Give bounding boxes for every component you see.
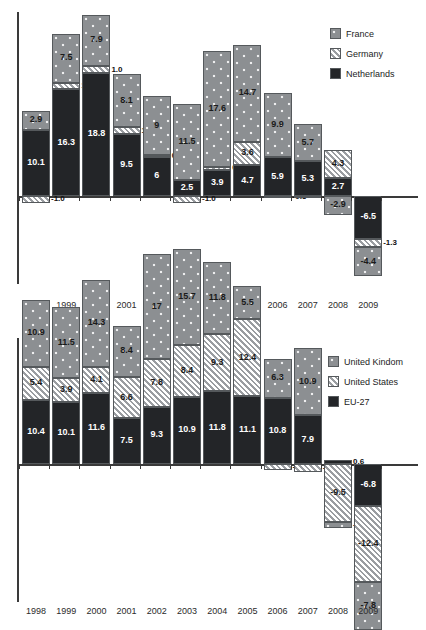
legend-item[interactable]: Netherlands — [330, 68, 395, 79]
y-axis-top — [17, 12, 19, 284]
bar-value-label: -4.4 — [354, 257, 382, 266]
bar-value-label: 8.1 — [113, 96, 141, 105]
x-axis-tick — [230, 196, 231, 201]
bar-value-label: 7.9 — [82, 35, 110, 44]
legend-item[interactable]: United States — [328, 376, 403, 387]
bar-value-label: -1.3 — [383, 239, 397, 247]
legend-swatch-icon — [328, 376, 339, 387]
chart-bottom-regions: 10.45.410.910.13.911.511.64.114.37.56.68… — [0, 316, 426, 625]
bar-segment[interactable] — [203, 167, 231, 171]
bar-value-label: -2.9 — [324, 200, 352, 209]
bar-value-label: 8.4 — [113, 346, 141, 355]
bar-segment[interactable] — [143, 155, 171, 157]
x-axis-tick — [351, 196, 352, 201]
bar-value-label: 15.7 — [173, 292, 201, 301]
legend-label: Germany — [346, 49, 383, 59]
bar-value-label: 5.9 — [264, 172, 292, 181]
y-axis-bottom — [17, 338, 19, 602]
bar-segment[interactable] — [113, 127, 141, 134]
x-axis-tick — [291, 196, 292, 201]
x-axis-label: 2009 — [348, 606, 388, 616]
bar-value-label: 10.4 — [22, 427, 50, 436]
x-axis-tick — [79, 464, 80, 469]
bar-value-label: 9.5 — [113, 160, 141, 169]
legend-label: United States — [344, 377, 398, 387]
bar-value-label: 1.0 — [111, 66, 122, 74]
bar-value-label: 9 — [143, 121, 171, 130]
bar-value-label: 4.7 — [233, 176, 261, 185]
x-axis-tick — [79, 196, 80, 201]
bar-value-label: 2.7 — [324, 182, 352, 191]
x-axis-tick — [291, 464, 292, 469]
bar-value-label: 14.3 — [82, 318, 110, 327]
x-axis-tick — [200, 196, 201, 201]
bar-value-label: 10.9 — [173, 425, 201, 434]
bar-value-label: 9.3 — [203, 358, 231, 367]
bar-value-label: 4.3 — [324, 159, 352, 168]
bar-segment[interactable] — [294, 464, 322, 472]
bar-segment[interactable] — [22, 196, 50, 203]
bar-segment[interactable] — [82, 66, 110, 73]
bar-value-label: 8.4 — [173, 366, 201, 375]
bar-value-label: 16.3 — [52, 138, 80, 147]
x-axis-label: 2009 — [348, 300, 388, 310]
x-axis-tick — [381, 464, 382, 469]
bar-value-label: 12.4 — [233, 353, 261, 362]
legend-item[interactable]: United Kindom — [328, 356, 403, 367]
bar-value-label: 11.5 — [52, 338, 80, 347]
x-axis-tick — [321, 196, 322, 201]
bar-value-label: 9.3 — [143, 430, 171, 439]
bar-segment[interactable] — [52, 83, 80, 90]
legend-label: France — [346, 29, 374, 39]
legend-label: Netherlands — [346, 69, 395, 79]
legend-item[interactable]: EU-27 — [328, 396, 403, 407]
x-axis-tick — [200, 464, 201, 469]
bar-value-label: 5.4 — [22, 378, 50, 387]
x-axis-tick — [170, 196, 171, 201]
bar-value-label: 14.7 — [233, 88, 261, 97]
x-axis-tick — [140, 196, 141, 201]
bar-value-label: 7.9 — [294, 435, 322, 444]
bar-value-label: -9.5 — [324, 488, 352, 497]
legend-item[interactable]: France — [330, 28, 395, 39]
bar-segment[interactable] — [173, 196, 201, 203]
x-axis-tick — [170, 464, 171, 469]
bar-value-label: 17.6 — [203, 104, 231, 113]
bar-segment[interactable] — [264, 196, 292, 198]
legend-label: United Kindom — [344, 357, 403, 367]
bar-value-label: 7.5 — [52, 53, 80, 62]
legend-item[interactable]: Germany — [330, 48, 395, 59]
bar-value-label: 10.9 — [22, 328, 50, 337]
bar-value-label: 17 — [143, 302, 171, 311]
bar-value-label: 18.8 — [82, 129, 110, 138]
bar-segment[interactable] — [324, 522, 352, 528]
bar-value-label: 3.9 — [52, 385, 80, 394]
bar-value-label: 7.8 — [143, 378, 171, 387]
x-axis-tick — [351, 464, 352, 469]
bar-segment[interactable] — [264, 464, 292, 470]
x-axis-tick — [261, 196, 262, 201]
bar-value-label: 3.9 — [203, 178, 231, 187]
x-axis-tick — [140, 464, 141, 469]
x-axis-tick — [381, 196, 382, 201]
bar-value-label: 5.3 — [294, 174, 322, 183]
bar-segment[interactable] — [294, 196, 322, 198]
bar-value-label: 11.5 — [173, 137, 201, 146]
bar-value-label: 5.7 — [294, 138, 322, 147]
legend-bottom: United KindomUnited StatesEU-27 — [328, 356, 403, 416]
x-axis-tick — [230, 464, 231, 469]
bar-value-label: -12.4 — [354, 539, 382, 548]
bar-value-label: 3.6 — [233, 148, 261, 157]
x-axis-tick — [49, 464, 50, 469]
bar-value-label: 9.9 — [264, 120, 292, 129]
bar-segment[interactable] — [354, 239, 382, 248]
bar-value-label: 6 — [143, 171, 171, 180]
bar-value-label: 10.1 — [22, 158, 50, 167]
bar-value-label: 2.9 — [22, 115, 50, 124]
x-axis-tick — [110, 464, 111, 469]
bar-value-label: 11.8 — [203, 423, 231, 432]
bar-value-label: 10.1 — [52, 428, 80, 437]
bar-value-label: 11.6 — [82, 423, 110, 432]
legend-swatch-icon — [328, 356, 339, 367]
bar-value-label: -6.5 — [354, 212, 382, 221]
